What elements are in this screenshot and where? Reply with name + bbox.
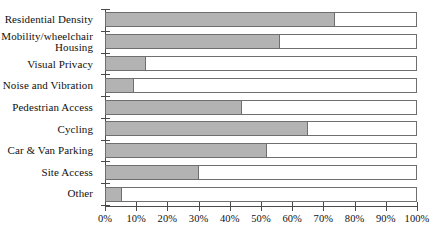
bar-fill xyxy=(106,188,122,201)
x-axis-tick-label: 50% xyxy=(251,213,271,224)
category-label: Mobility/wheelchair Housing xyxy=(0,31,99,54)
bar-row xyxy=(105,74,417,96)
bar-fill xyxy=(106,166,199,179)
x-axis-tick xyxy=(417,202,418,211)
bar-fill xyxy=(106,57,146,70)
x-axis-tick-label: 100% xyxy=(405,213,430,224)
category-label: Cycling xyxy=(0,119,99,141)
x-axis-tick xyxy=(105,202,106,211)
horizontal-bar-chart: Residential DensityMobility/wheelchair H… xyxy=(0,0,440,241)
bar-track xyxy=(105,78,417,93)
bar-fill xyxy=(106,35,280,48)
bar-track xyxy=(105,34,417,49)
x-axis-tick xyxy=(230,202,231,211)
bar-track xyxy=(105,121,417,136)
bar-row xyxy=(105,96,417,118)
bar-fill xyxy=(106,122,308,135)
x-axis-tick-label: 70% xyxy=(314,213,334,224)
category-label: Pedestrian Access xyxy=(0,97,99,119)
x-axis-tick xyxy=(261,202,262,211)
x-axis-tick xyxy=(136,202,137,211)
x-axis-tick-label: 10% xyxy=(126,213,146,224)
x-axis-spine xyxy=(105,206,418,207)
x-axis-tick-labels: 0%10%20%30%40%50%60%70%80%90%100% xyxy=(105,213,418,231)
bar-track xyxy=(105,143,417,158)
bar-row xyxy=(105,31,417,53)
bar-fill xyxy=(106,79,134,92)
bar-track xyxy=(105,56,417,71)
x-axis-tick xyxy=(386,202,387,211)
bar-row xyxy=(105,161,417,183)
bar-track xyxy=(105,100,417,115)
x-axis-tick xyxy=(199,202,200,211)
bar-track xyxy=(105,187,417,202)
category-label: Other xyxy=(0,183,99,205)
bar-track xyxy=(105,12,417,27)
x-axis-tick-label: 60% xyxy=(282,213,302,224)
category-label: Visual Privacy xyxy=(0,54,99,76)
x-axis-tick xyxy=(167,202,168,211)
bar-row xyxy=(105,53,417,75)
x-axis-tick-label: 90% xyxy=(376,213,396,224)
bar-row xyxy=(105,118,417,140)
category-axis-labels: Residential DensityMobility/wheelchair H… xyxy=(0,9,99,205)
x-axis-tick-label: 0% xyxy=(98,213,112,224)
category-label: Noise and Vibration xyxy=(0,75,99,97)
x-axis-tick xyxy=(355,202,356,211)
bar-row xyxy=(105,9,417,31)
x-axis-tick xyxy=(323,202,324,211)
bar-row xyxy=(105,140,417,162)
x-axis-tick-label: 30% xyxy=(189,213,209,224)
category-label: Site Access xyxy=(0,162,99,184)
category-label: Residential Density xyxy=(0,9,99,31)
x-axis-tick-label: 20% xyxy=(158,213,178,224)
x-axis-tick-label: 40% xyxy=(220,213,240,224)
bar-fill xyxy=(106,101,242,114)
bar-fill xyxy=(106,144,267,157)
plot-area xyxy=(105,9,417,205)
x-axis-tick-label: 80% xyxy=(345,213,365,224)
x-axis-tick xyxy=(292,202,293,211)
bar-track xyxy=(105,165,417,180)
bar-fill xyxy=(106,13,335,26)
category-label: Car & Van Parking xyxy=(0,140,99,162)
